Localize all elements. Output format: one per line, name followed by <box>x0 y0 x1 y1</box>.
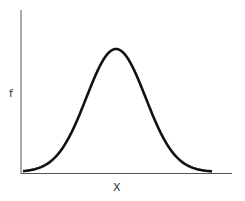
bell-curve <box>23 49 212 171</box>
y-axis-label: f <box>9 87 13 100</box>
x-axis-label: X <box>113 181 121 194</box>
chart-plot <box>0 0 245 201</box>
